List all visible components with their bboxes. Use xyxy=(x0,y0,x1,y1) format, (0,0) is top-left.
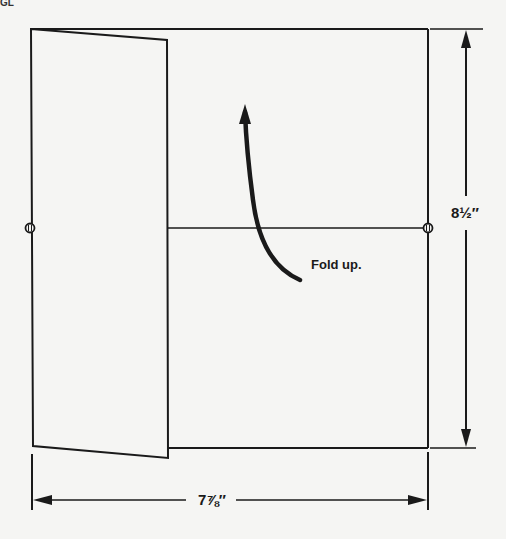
height-dimension-label: 8½″ xyxy=(451,203,479,222)
width-dimension-line xyxy=(32,452,428,510)
width-dimension-label: 7⅞″ xyxy=(196,492,228,507)
folded-flap xyxy=(31,29,168,458)
folding-diagram xyxy=(0,0,506,539)
height-dimension-line xyxy=(430,29,483,448)
fold-up-arrow-icon xyxy=(239,104,300,280)
pivot-marker-right xyxy=(424,224,433,233)
pivot-marker-left xyxy=(26,224,35,233)
fold-instruction-label: Fold up. xyxy=(311,258,362,271)
